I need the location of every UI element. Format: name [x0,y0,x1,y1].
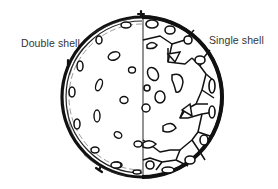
outer-shell [62,17,222,177]
sphere-illustration [0,0,278,189]
shell-comparison-diagram: Double shell Single shell [0,0,278,189]
